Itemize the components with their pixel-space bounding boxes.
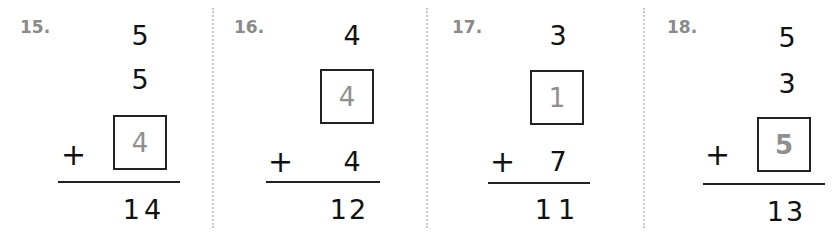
problem-15: 15. 5 5 + 4 14 bbox=[0, 0, 212, 237]
plus-sign: + bbox=[705, 139, 730, 171]
sum-line bbox=[266, 181, 380, 183]
answer-value: 5 bbox=[775, 130, 793, 160]
plus-sign: + bbox=[268, 146, 293, 178]
answer-value: 4 bbox=[339, 82, 356, 112]
problem-16: 16. 4 4 + 4 12 bbox=[212, 0, 426, 237]
sum: 11 bbox=[534, 194, 582, 226]
answer-box[interactable]: 4 bbox=[113, 115, 167, 170]
addend: 3 bbox=[767, 68, 807, 100]
problem-number: 15. bbox=[20, 17, 50, 37]
addend: 5 bbox=[120, 20, 160, 52]
problem-17: 17. 3 1 + 7 11 bbox=[426, 0, 643, 237]
sum-line bbox=[703, 183, 825, 185]
addend: 3 bbox=[538, 20, 578, 52]
problem-number: 18. bbox=[667, 17, 697, 37]
problem-18: 18. 5 3 + 5 13 bbox=[643, 0, 836, 237]
sum-line bbox=[58, 181, 180, 183]
addend: 5 bbox=[767, 22, 807, 54]
answer-box[interactable]: 4 bbox=[320, 69, 374, 124]
sum: 14 bbox=[120, 194, 168, 226]
plus-sign: + bbox=[61, 139, 86, 171]
problem-number: 16. bbox=[234, 17, 264, 37]
addend: 7 bbox=[538, 146, 578, 178]
addend: 5 bbox=[120, 64, 160, 96]
addend: 4 bbox=[332, 20, 372, 52]
sum-line bbox=[488, 182, 590, 184]
sum: 13 bbox=[761, 196, 811, 228]
plus-sign: + bbox=[490, 146, 515, 178]
answer-box[interactable]: 5 bbox=[757, 117, 811, 172]
addend: 4 bbox=[332, 146, 372, 178]
answer-box[interactable]: 1 bbox=[530, 70, 584, 125]
problem-number: 17. bbox=[452, 17, 482, 37]
answer-value: 1 bbox=[549, 83, 566, 113]
answer-value: 4 bbox=[132, 128, 149, 158]
sum: 12 bbox=[324, 194, 374, 226]
